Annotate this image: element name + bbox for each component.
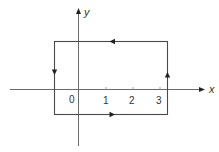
arrow-right-icon <box>110 112 116 117</box>
arrow-left-icon <box>110 39 116 44</box>
y-axis <box>76 8 81 146</box>
y-axis-label: y <box>83 6 91 18</box>
arrow-up-icon <box>165 72 170 78</box>
x-axis-arrowhead-icon <box>199 87 205 92</box>
x-axis <box>10 87 205 92</box>
x-tick-label-2: 2 <box>129 95 135 106</box>
x-tick-label-1: 1 <box>103 95 109 106</box>
y-axis-arrowhead-icon <box>76 8 81 14</box>
arrow-down-icon <box>52 70 57 76</box>
contour-diagram: x y 0 1 2 3 <box>0 0 219 152</box>
x-tick-label-3: 3 <box>156 95 162 106</box>
x-axis-label: x <box>208 83 215 95</box>
origin-label: 0 <box>69 94 75 105</box>
